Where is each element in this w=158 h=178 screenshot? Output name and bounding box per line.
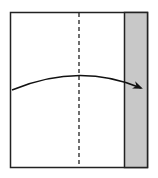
fold-diagram: [0, 0, 158, 178]
folded-strip: [125, 13, 148, 168]
